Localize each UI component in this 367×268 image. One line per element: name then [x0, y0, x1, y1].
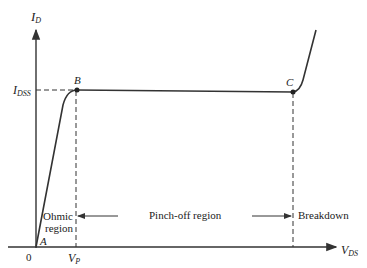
point-b-marker: [75, 88, 80, 93]
point-b-label: B: [74, 75, 81, 86]
breakdown-label: Breakdown: [298, 210, 349, 221]
x-axis-label: VDS: [341, 244, 358, 258]
vp-label: VP: [68, 252, 80, 266]
pinchoff-region-label: Pinch-off region: [149, 210, 221, 221]
origin-label: 0: [26, 252, 32, 263]
ohmic-region-label-line1: Ohmic: [43, 211, 73, 222]
ohmic-region-label-line2: region: [45, 223, 73, 234]
idss-label: IDSS: [13, 84, 31, 98]
y-axis-label: ID: [31, 10, 41, 25]
point-c-marker: [291, 90, 296, 95]
point-a-label: A: [40, 236, 47, 247]
jfet-characteristic-diagram: ID VDS 0 IDSS VP A B C Ohmic region Pinc…: [0, 0, 367, 268]
point-c-label: C: [286, 77, 293, 88]
